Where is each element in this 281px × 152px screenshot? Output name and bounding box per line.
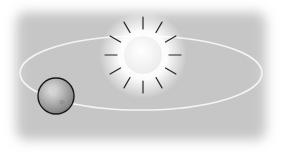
earth-icon bbox=[38, 78, 74, 114]
earth-sun-orbit-diagram bbox=[0, 0, 281, 152]
sun-icon bbox=[99, 11, 187, 99]
